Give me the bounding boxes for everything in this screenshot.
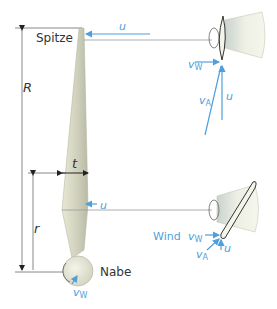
tip-vw-label: vW [188, 58, 203, 72]
tip-u-label: u [119, 20, 126, 33]
tip-section-detail [195, 12, 265, 135]
label-R: R [23, 80, 32, 95]
label-t: t [72, 156, 78, 171]
rotor-blade [62, 28, 88, 258]
label-hub: Nabe [100, 265, 131, 279]
mid-u-detail-label: u [224, 242, 231, 255]
mid-u-label: u [100, 199, 107, 212]
mid-section-detail [205, 182, 259, 250]
rotor-hub [63, 256, 93, 286]
tip-u-detail-label: u [226, 90, 233, 103]
label-r: r [34, 221, 41, 236]
mid-vw-label: vW [188, 230, 203, 244]
hub-wind-label: vW [73, 286, 88, 300]
label-tip: Spitze [36, 31, 73, 45]
label-wind: Wind [153, 230, 181, 243]
tip-va-label: vA [199, 94, 212, 108]
mid-va-label: vA [196, 248, 209, 262]
